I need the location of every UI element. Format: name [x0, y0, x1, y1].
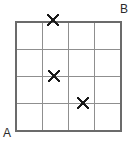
corner-label-b: B — [120, 3, 128, 15]
x-marker-1 — [48, 15, 58, 25]
grid-svg — [0, 0, 134, 141]
x-marker-3 — [78, 98, 88, 108]
grid-figure: A B — [0, 0, 134, 141]
corner-label-a: A — [3, 127, 11, 139]
